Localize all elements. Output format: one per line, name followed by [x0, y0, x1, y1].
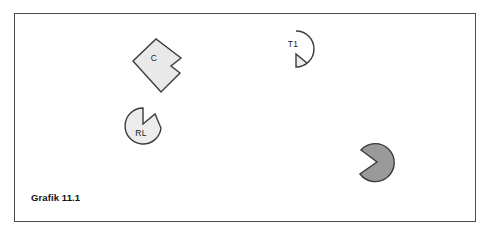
figure-caption: Grafik 11.1 — [31, 192, 80, 203]
shape-c-outline — [133, 39, 181, 92]
figure-frame: C T1 RL Grafik 11.1 — [14, 13, 476, 222]
shape-rl[interactable]: RL — [125, 108, 161, 144]
shape-rl-outline — [125, 108, 161, 144]
shape-dark-outline — [360, 144, 394, 182]
figure-canvas: C T1 RL — [15, 14, 477, 223]
shape-t1[interactable]: T1 — [288, 31, 314, 67]
shape-t1-label: T1 — [288, 39, 298, 49]
shape-rl-label: RL — [135, 128, 146, 138]
shape-t1-outline — [296, 31, 314, 67]
shape-dark[interactable] — [360, 144, 394, 182]
figure-root: C T1 RL Grafik 11.1 — [0, 0, 490, 239]
shape-c[interactable]: C — [133, 39, 181, 92]
shape-c-label: C — [151, 53, 157, 63]
